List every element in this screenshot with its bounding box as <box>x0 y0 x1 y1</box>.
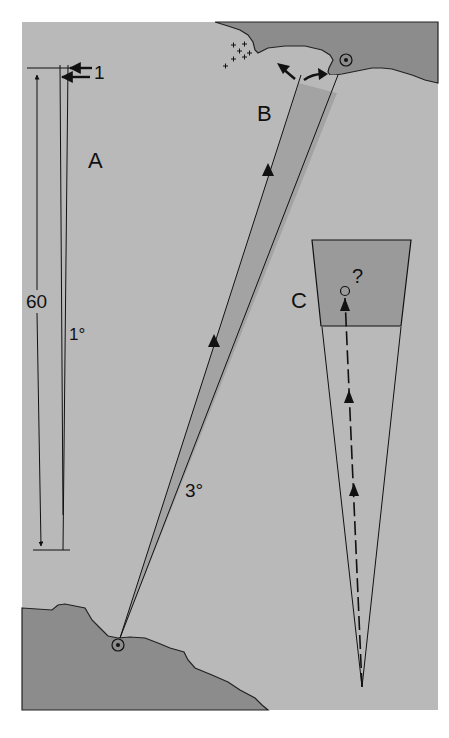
distance-label: 60 <box>26 291 47 312</box>
angle-label-a: 1° <box>69 325 85 344</box>
panel-c-label: C <box>291 288 307 313</box>
question-mark-label: ? <box>352 265 363 287</box>
sea-background <box>22 22 438 710</box>
panel-b-label: B <box>257 101 272 126</box>
offset-label: 1 <box>94 62 105 83</box>
angle-label-b: 3° <box>185 480 203 501</box>
panel-a-label: A <box>88 148 103 173</box>
navigation-error-diagram: 1 A 60 1° <box>0 0 449 738</box>
